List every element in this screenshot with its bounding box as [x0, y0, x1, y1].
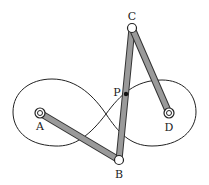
tracing-point-p: [124, 92, 128, 96]
joint-b-icon: [115, 156, 124, 165]
label-d: D: [165, 121, 174, 134]
label-b: B: [115, 168, 123, 181]
label-a: A: [35, 120, 45, 133]
joint-c-icon: [128, 24, 137, 33]
link-ab: [40, 113, 119, 160]
label-p: P: [113, 86, 121, 99]
pivot-a-icon: [35, 108, 45, 118]
link-cd: [132, 28, 169, 113]
linkage-diagram: A B C D P: [0, 0, 209, 185]
pivot-d-icon: [164, 108, 174, 118]
label-c: C: [128, 10, 136, 23]
